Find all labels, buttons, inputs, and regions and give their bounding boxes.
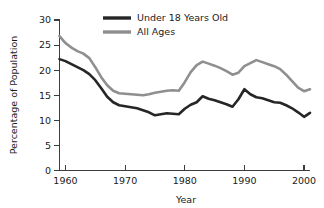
y-axis-ticks [54,20,60,171]
y-axis-title: Percentage of Population [8,36,19,155]
series-lines [60,36,311,117]
line-chart: 051015202530 Percentage of Population 19… [0,0,324,208]
x-axis-title: Year [175,194,196,205]
x-tick-label-1990: 1990 [232,175,256,186]
y-tick-label-15: 15 [39,90,51,101]
series-line-all-ages [60,36,311,95]
y-tick-label-20: 20 [39,65,51,76]
x-tick-label-1970: 1970 [113,175,137,186]
y-tick-label-10: 10 [39,115,51,126]
y-tick-label-30: 30 [39,14,51,25]
x-tick-label-1960: 1960 [53,175,77,186]
legend-label-all-ages: All Ages [137,26,175,37]
chart-legend: Under 18 Years OldAll Ages [103,12,228,37]
y-tick-label-0: 0 [45,165,51,176]
y-axis-group: 051015202530 Percentage of Population [8,14,60,176]
x-tick-label-2000: 2000 [292,175,316,186]
y-tick-label-5: 5 [45,140,51,151]
legend-label-under-18-years-old: Under 18 Years Old [137,12,228,23]
y-tick-label-25: 25 [39,39,51,50]
chart-canvas: 051015202530 Percentage of Population 19… [0,0,324,208]
y-axis-tick-labels: 051015202530 [39,14,51,176]
x-tick-label-1980: 1980 [173,175,197,186]
x-axis-ticks [65,165,304,171]
x-axis-tick-labels: 19601970198019902000 [53,175,316,186]
x-axis-group: 19601970198019902000 Year [53,165,316,205]
